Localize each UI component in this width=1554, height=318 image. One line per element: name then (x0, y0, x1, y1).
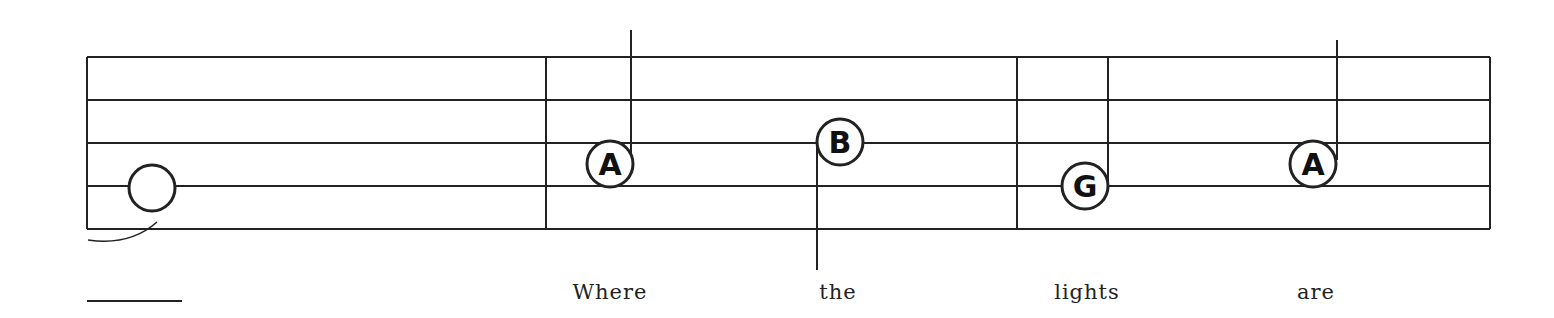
lyric-word: Where (572, 280, 647, 304)
note-label: G (1073, 169, 1098, 204)
note-label: B (829, 125, 852, 160)
whole-note (129, 165, 175, 211)
note-label: A (598, 147, 622, 182)
tie-arc (88, 222, 157, 241)
note-label: A (1301, 147, 1325, 182)
lyric-word: the (819, 280, 856, 304)
lyric-word: are (1297, 280, 1335, 304)
lyric-word: lights (1054, 280, 1120, 304)
music-staff: A B G A (0, 0, 1554, 318)
